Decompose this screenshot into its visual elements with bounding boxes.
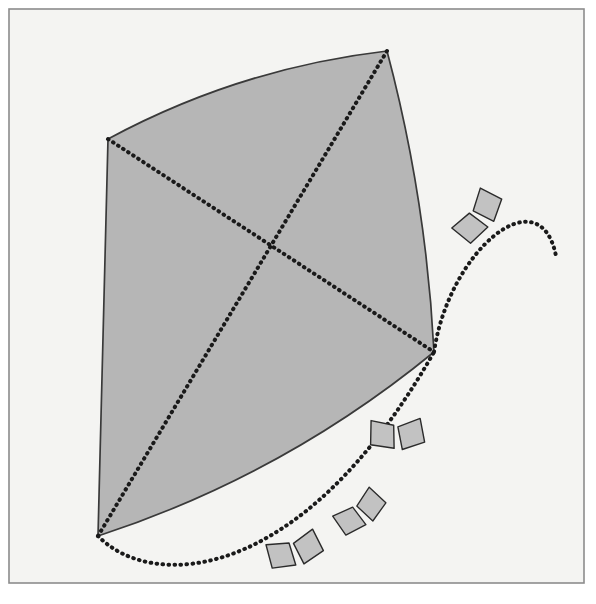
page-root	[0, 0, 596, 604]
kite-illustration	[0, 0, 596, 604]
